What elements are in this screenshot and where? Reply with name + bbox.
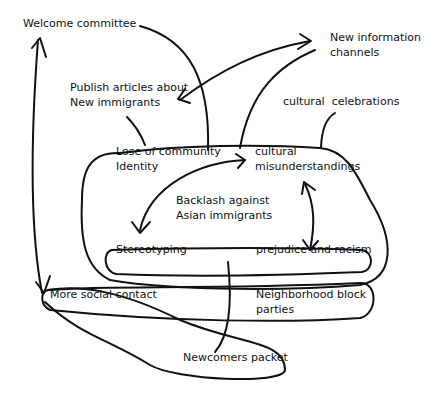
node-text: Publish articles about [70, 80, 188, 95]
node-new-information-channels: New information channels [330, 30, 421, 60]
node-text: Identity [116, 159, 221, 174]
node-text: More social contact [50, 287, 157, 302]
node-text: Newcomers packet [183, 350, 288, 365]
node-text: parties [256, 302, 366, 317]
node-text: prejudice and racism [256, 242, 371, 257]
node-text: channels [330, 45, 421, 60]
node-more-social-contact: More social contact [50, 287, 157, 302]
node-newcomers-packet: Newcomers packet [183, 350, 288, 365]
misunder-prejudice-arrow [305, 184, 313, 250]
node-lose-of-community-identity: Lose of community Identity [116, 144, 221, 174]
node-publish-articles: Publish articles about New immigrants [70, 80, 188, 110]
node-prejudice-and-racism: prejudice and racism [256, 242, 371, 257]
node-text: New immigrants [70, 95, 188, 110]
node-stereotyping: Stereotyping [116, 242, 187, 257]
node-text: Neighborhood block [256, 287, 366, 302]
node-text: Asian immigrants [176, 208, 272, 223]
node-welcome-committee: Welcome committee [23, 16, 136, 31]
node-neighborhood-block-parties: Neighborhood block parties [256, 287, 366, 317]
node-text: Lose of community [116, 144, 221, 159]
node-text: New information [330, 30, 421, 45]
welcome-arrowhead [32, 38, 46, 57]
publish-newinfo-arrow [180, 41, 310, 100]
node-text: Welcome committee [23, 16, 136, 31]
node-text: cultural [255, 144, 360, 159]
node-text: cultural celebrations [283, 94, 399, 109]
node-cultural-celebrations: cultural celebrations [283, 94, 399, 109]
node-backlash: Backlash against Asian immigrants [176, 193, 272, 223]
node-text: misunderstandings [255, 159, 360, 174]
node-text: Backlash against [176, 193, 272, 208]
node-text: Stereotyping [116, 242, 187, 257]
publish-to-cluster-line [127, 117, 145, 145]
node-cultural-misunderstandings: cultural misunderstandings [255, 144, 360, 174]
welcome-to-social-arrow [33, 40, 43, 293]
celebrations-to-cluster-line [321, 113, 335, 147]
